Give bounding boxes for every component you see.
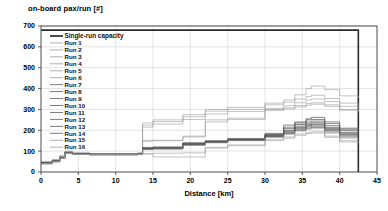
y-tick-300: 300 [23,106,35,113]
legend-label-run-8: Run 8 [65,88,83,95]
y-tick-200: 200 [23,127,35,134]
legend-label-run-1: Run 1 [65,39,83,46]
series-run-16 [41,133,358,164]
grid-lines [41,26,377,172]
x-tick-15: 15 [149,177,157,184]
x-tick-35: 35 [298,177,306,184]
series-run-6 [41,117,358,162]
x-tick-0: 0 [39,177,43,184]
chart-legend: Single-run capacityRun 1Run 2Run 3Run 4R… [50,32,124,150]
legend-label-run-9: Run 9 [65,95,83,102]
y-tick-400: 400 [23,85,35,92]
legend-label-run-12: Run 12 [65,116,86,123]
x-axis-title: Distance [km] [184,189,234,198]
y-tick-100: 100 [23,148,35,155]
legend-label-run-11: Run 11 [65,109,86,116]
legend-label-run-13: Run 13 [65,123,86,130]
y-tick-700: 700 [23,22,35,29]
series-run-15 [41,132,358,164]
x-tick-40: 40 [336,177,344,184]
y-tick-0: 0 [31,168,35,175]
x-tick-20: 20 [186,177,194,184]
plot-frame [41,26,377,172]
legend-label-run-15: Run 15 [65,136,86,143]
legend-label-run-2: Run 2 [65,46,83,53]
legend-label-run-10: Run 10 [65,102,86,109]
series-run-11 [41,125,358,164]
x-tick-30: 30 [261,177,269,184]
legend-label-run-14: Run 14 [65,130,86,137]
x-tick-25: 25 [224,177,232,184]
series-lines [41,30,358,172]
legend-label-run-4: Run 4 [65,60,83,67]
legend-label-run-6: Run 6 [65,74,83,81]
legend-label-run-16: Run 16 [65,143,86,150]
legend-label-run-3: Run 3 [65,53,83,60]
legend-label-run-5: Run 5 [65,67,83,74]
y-tick-600: 600 [23,43,35,50]
x-tick-10: 10 [112,177,120,184]
chart-plot: 051015202530354045 010020030040050060070… [0,0,388,211]
chart-figure: on-board pax/run [#] 051015202530354045 … [0,0,388,211]
x-tick-45: 45 [373,177,381,184]
legend-label-run-7: Run 7 [65,81,83,88]
series-single-run-capacity [41,30,358,172]
y-tick-500: 500 [23,64,35,71]
x-axis-ticks: 051015202530354045 [39,172,381,184]
y-axis-ticks: 0100200300400500600700 [23,22,41,175]
x-tick-5: 5 [76,177,80,184]
